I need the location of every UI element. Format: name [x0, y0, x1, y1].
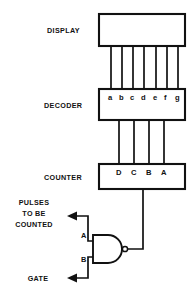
- counter-block: [99, 164, 185, 189]
- nand-gate: [93, 235, 128, 263]
- pulses-input-arrowhead: [67, 212, 77, 221]
- gate-output-wire: [128, 189, 143, 249]
- gate-input-label: GATE: [28, 274, 49, 283]
- display-block-label: DISPLAY: [47, 26, 80, 35]
- gate-input-wire: [67, 257, 93, 283]
- decoder-pin-e: e: [153, 93, 157, 102]
- pulses-input-wire: [67, 212, 93, 242]
- gate-input-label-a: A: [81, 231, 87, 240]
- decoder-pin-d: d: [141, 93, 146, 102]
- bus-decoder-to-display: [111, 46, 178, 89]
- decoder-pin-c: c: [130, 93, 134, 102]
- pulses-label-line-1: PULSES: [19, 198, 50, 207]
- pulses-input-label: PULSES TO BE COUNTED: [15, 198, 53, 229]
- counter-pin-c: C: [131, 168, 137, 177]
- counter-block-label: COUNTER: [44, 173, 82, 182]
- counter-pin-a: A: [161, 168, 167, 177]
- decoder-pin-g: g: [175, 93, 180, 102]
- decoder-block-label: DECODER: [44, 101, 83, 110]
- gate-input-arrowhead: [67, 274, 77, 283]
- counter-block-diagram: DISPLAY DECODER a b c d e f g COUNTER D …: [0, 0, 193, 297]
- gate-input-label-b: B: [81, 255, 86, 264]
- bus-counter-to-decoder: [119, 120, 164, 164]
- display-block: [99, 14, 185, 46]
- diagram-canvas: DISPLAY DECODER a b c d e f g COUNTER D …: [0, 0, 193, 297]
- pulses-label-line-3: COUNTED: [15, 220, 53, 229]
- decoder-pin-b: b: [119, 93, 124, 102]
- nand-gate-inversion-bubble: [122, 246, 127, 251]
- pulses-label-line-2: TO BE: [22, 209, 45, 218]
- counter-pin-b: B: [146, 168, 152, 177]
- counter-pin-d: D: [116, 168, 122, 177]
- nand-gate-body: [93, 235, 122, 263]
